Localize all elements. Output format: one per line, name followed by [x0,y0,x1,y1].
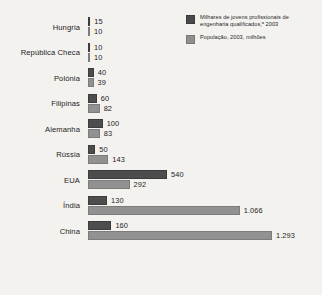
bar-population [88,206,240,215]
chart-container: Milhares de jovens profissionais de enge… [0,0,322,295]
bar-value-population: 292 [134,180,147,189]
bar-engineers [88,68,94,77]
chart-row: Índia1301.066 [0,193,322,219]
bar-group: 1010 [88,40,322,66]
bar-value-engineers: 100 [107,119,120,128]
bar-value-population: 10 [94,27,102,36]
category-label: República Checa [0,48,80,57]
bar-value-population: 1.066 [244,206,263,215]
category-label: Hungria [0,22,80,31]
chart-row: EUA540292 [0,167,322,193]
bar-group: 10083 [88,116,322,142]
chart-rows: Hungria1510República Checa1010Polónia403… [0,14,322,244]
bar-population [88,155,108,164]
bar-engineers [88,196,107,205]
bar-value-population: 39 [98,78,106,87]
category-label: China [0,226,80,235]
bar-value-population: 10 [94,53,102,62]
chart-row: China1601.293 [0,218,322,244]
category-label: Polónia [0,73,80,82]
category-label: EUA [0,175,80,184]
bar-population [88,27,90,36]
chart-row: Filipinas6082 [0,91,322,117]
bar-group: 1510 [88,14,322,40]
bar-value-population: 143 [112,155,125,164]
bar-value-engineers: 15 [94,17,102,26]
bar-group: 1601.293 [88,218,322,244]
bar-value-engineers: 50 [99,145,107,154]
category-label: Índia [0,201,80,210]
bar-group: 4039 [88,65,322,91]
chart-row: Hungria1510 [0,14,322,40]
category-label: Filipinas [0,99,80,108]
category-label: Alemanha [0,124,80,133]
bar-value-engineers: 540 [171,170,184,179]
bar-value-population: 1.293 [276,231,295,240]
bar-population [88,53,90,62]
bar-population [88,180,130,189]
chart-row: Polónia4039 [0,65,322,91]
bar-group: 6082 [88,91,322,117]
bar-engineers [88,119,103,128]
bar-group: 540292 [88,167,322,193]
bar-population [88,231,272,240]
bar-engineers [88,170,167,179]
bar-value-engineers: 160 [115,221,128,230]
chart-row: República Checa1010 [0,40,322,66]
bar-group: 1301.066 [88,193,322,219]
chart-row: Rússia50143 [0,142,322,168]
bar-value-population: 83 [104,129,112,138]
bar-value-engineers: 130 [111,196,124,205]
bar-value-population: 82 [104,104,112,113]
category-label: Rússia [0,150,80,159]
bar-value-engineers: 40 [98,68,106,77]
bar-population [88,129,100,138]
bar-value-engineers: 60 [101,94,109,103]
chart-row: Alemanha10083 [0,116,322,142]
bar-engineers [88,94,97,103]
bar-value-engineers: 10 [94,43,102,52]
bar-population [88,104,100,113]
bar-engineers [88,17,90,26]
bar-engineers [88,221,111,230]
bar-engineers [88,145,95,154]
bar-engineers [88,43,90,52]
bar-group: 50143 [88,142,322,168]
bar-population [88,78,94,87]
